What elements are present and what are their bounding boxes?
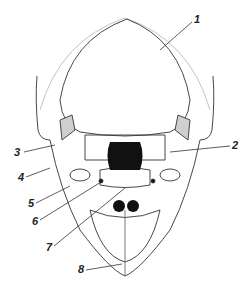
- label-8: 8: [78, 264, 84, 275]
- label-3: 3: [14, 147, 20, 158]
- label-2: 2: [232, 140, 238, 151]
- label-4: 4: [18, 172, 24, 183]
- label-1: 1: [194, 14, 200, 25]
- label-6: 6: [32, 216, 38, 227]
- label-5: 5: [28, 198, 34, 209]
- foramen-magnum: [108, 142, 143, 170]
- skull-diagram: [0, 0, 250, 284]
- label-7: 7: [46, 242, 52, 253]
- vault-outline: [60, 19, 190, 136]
